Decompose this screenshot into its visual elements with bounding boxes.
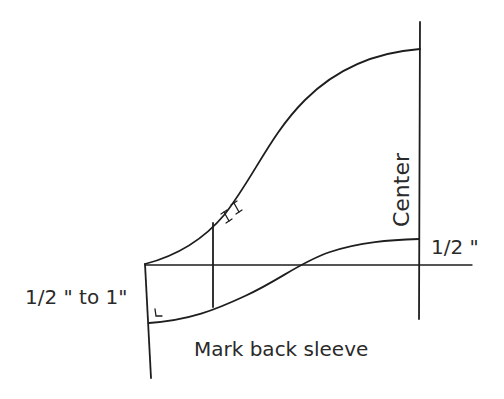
center-label: Center bbox=[389, 152, 414, 227]
center-line bbox=[419, 22, 420, 319]
hem-curve bbox=[149, 239, 419, 323]
right-angle-mark bbox=[155, 309, 162, 316]
left-edge-line bbox=[145, 264, 151, 378]
caption-label: Mark back sleeve bbox=[194, 337, 368, 361]
half-to-one-inch-label: 1/2 " to 1" bbox=[25, 285, 127, 309]
double-notch bbox=[221, 201, 242, 223]
sleeve-pattern-diagram: Center 1/2 " 1/2 " to 1" Mark back sleev… bbox=[0, 0, 504, 399]
sleeve-cap-curve bbox=[145, 49, 420, 264]
half-inch-label: 1/2 " bbox=[431, 235, 479, 259]
